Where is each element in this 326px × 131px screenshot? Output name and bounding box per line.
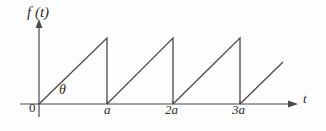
x-axis-arrow-icon [288, 101, 298, 108]
sawtooth-cycle-1 [39, 38, 107, 104]
sawtooth-waveform-curve [39, 38, 283, 104]
x-axis-label: t [303, 92, 307, 105]
origin-label: 0 [29, 101, 36, 114]
x-tick-label-3a: 3a [232, 103, 245, 116]
sawtooth-cycle-3 [173, 38, 240, 104]
y-axis-arrow-icon [36, 19, 43, 28]
angle-theta-label: θ [59, 83, 66, 97]
y-axis-label: f (t) [27, 5, 49, 20]
x-axis [20, 101, 298, 108]
sawtooth-cycle-4-partial [240, 62, 283, 104]
sawtooth-waveform-figure: f (t) θ 0 a 2a 3a t [0, 0, 326, 131]
x-tick-label-a: a [104, 103, 111, 116]
x-tick-label-2a: 2a [165, 103, 178, 116]
sawtooth-cycle-2 [107, 38, 173, 104]
